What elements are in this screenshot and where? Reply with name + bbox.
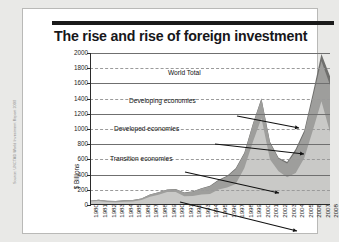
gridline	[90, 175, 330, 176]
x-tick-label: 1992	[195, 204, 202, 242]
x-tick-label: 1999	[255, 204, 262, 242]
x-tick-label: 1989	[170, 204, 177, 242]
gridline	[90, 114, 330, 115]
x-tick-label: 2002	[281, 204, 288, 242]
x-tick-label: 2000	[264, 204, 271, 242]
x-tick-label: 1985	[135, 204, 142, 242]
y-tick-mark	[87, 190, 91, 191]
gridline	[90, 68, 330, 69]
x-axis-ticks: 1980198119821983198419851986198719881989…	[90, 206, 330, 242]
y-tick-label: 200	[54, 187, 88, 193]
x-tick-label: 2003	[290, 204, 297, 242]
y-tick-label: 1200	[54, 111, 88, 117]
y-tick-label: 1000	[54, 126, 88, 132]
annotation-developing-economies: Developing economies	[129, 97, 196, 105]
x-tick-label: 1986	[144, 204, 151, 242]
gridline	[90, 144, 330, 145]
y-tick-mark	[87, 83, 91, 84]
x-tick-label: 1991	[187, 204, 194, 242]
x-tick-label: 1996	[230, 204, 237, 242]
y-tick-label: 600	[54, 156, 88, 162]
y-tick-mark	[87, 175, 91, 176]
y-tick-mark	[87, 68, 91, 69]
y-tick-mark	[87, 159, 91, 160]
x-tick-label: 1987	[152, 204, 159, 242]
x-tick-label: 1995	[221, 204, 228, 242]
x-tick-label: 2006	[315, 204, 322, 242]
x-tick-label: 1997	[238, 204, 245, 242]
gridline	[90, 53, 330, 54]
x-tick-label: 1988	[161, 204, 168, 242]
y-tick-mark	[87, 53, 91, 54]
gridline	[90, 190, 330, 191]
y-tick-mark	[87, 99, 91, 100]
gridline	[90, 83, 330, 84]
y-tick-mark	[87, 114, 91, 115]
x-tick-label: 1993	[204, 204, 211, 242]
x-tick-label: 1998	[247, 204, 254, 242]
x-tick-label: 2001	[272, 204, 279, 242]
y-tick-label: 800	[54, 141, 88, 147]
y-tick-label: 1800	[54, 65, 88, 71]
x-tick-label: 1983	[118, 204, 125, 242]
plot-area: $ Billions 20001800160014001200100080060…	[52, 53, 332, 242]
y-axis-ticks: 2000180016001400120010008006004002000	[52, 53, 88, 205]
y-tick-mark	[87, 129, 91, 130]
x-tick-label: 1984	[127, 204, 134, 242]
y-tick-label: 2000	[54, 50, 88, 56]
y-tick-label: 0	[54, 202, 88, 208]
y-tick-mark	[87, 144, 91, 145]
x-tick-label: 2005	[307, 204, 314, 242]
x-tick-label: 2004	[298, 204, 305, 242]
x-tick-label: 1980	[92, 204, 99, 242]
y-tick-label: 400	[54, 172, 88, 178]
page-title: The rise and rise of foreign investment	[54, 27, 329, 45]
y-tick-label: 1600	[54, 80, 88, 86]
x-tick-label: 1982	[110, 204, 117, 242]
source-credit: Source: UNCTAD World Investment Report 2…	[13, 87, 17, 197]
chart-card: The rise and rise of foreign investment …	[22, 8, 318, 234]
annotation-transition-economies: Transition economies	[110, 155, 172, 163]
x-tick-label: 1990	[178, 204, 185, 242]
x-tick-label: 1994	[212, 204, 219, 242]
x-tick-label: 1981	[101, 204, 108, 242]
annotation-developed-economies: Developed economies	[114, 125, 179, 133]
title-rule	[52, 21, 334, 25]
x-tick-label: 2007	[324, 204, 331, 242]
y-tick-label: 1400	[54, 96, 88, 102]
gridline	[90, 99, 330, 100]
x-tick-label: 2008	[332, 204, 339, 242]
annotation-world-total: World Total	[168, 69, 201, 77]
